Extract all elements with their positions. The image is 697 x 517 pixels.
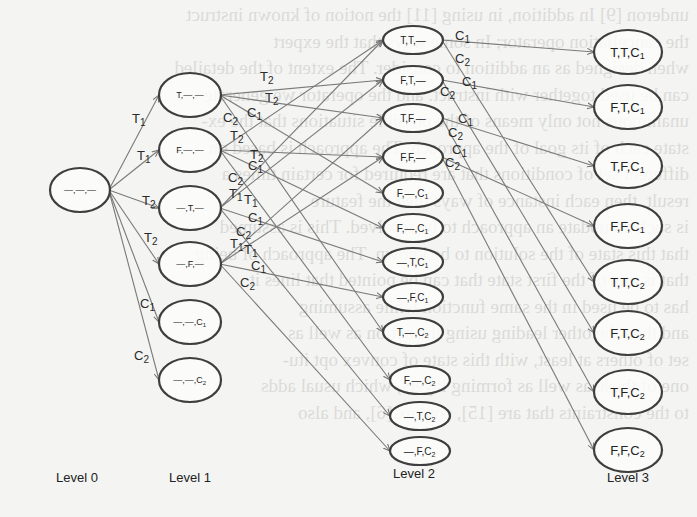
edge-l1_F-to-l2_FF: [220, 150, 383, 157]
state-node-l3_TFC2: T,F,C2: [594, 370, 662, 414]
edge-label: C2: [445, 155, 460, 172]
edge-label: T1: [244, 192, 258, 209]
edge-label: T2: [230, 128, 244, 145]
state-node-label: —,F,C1: [397, 292, 430, 304]
state-node-label: T,—,C2: [397, 327, 430, 339]
state-node-label: —,F,—: [176, 259, 204, 269]
state-node-label: T,—,—: [176, 90, 204, 100]
state-node-l3_TTC2: T,T,C2: [594, 260, 662, 304]
edge-label: T2: [142, 193, 156, 210]
edge-l2_FF-to-l3_FFC2: [442, 157, 594, 450]
edge-label: C1: [251, 258, 266, 275]
state-node-l2_TT: T,T,—: [383, 26, 443, 54]
state-node-l2_F_C1b: F,—,C1: [383, 214, 443, 242]
edge-label: C1: [247, 105, 262, 122]
state-node-label: F,T,—: [400, 75, 426, 86]
state-node-label: T,T,—: [400, 35, 426, 46]
state-node-l3_FFC2: F,F,C2: [594, 428, 662, 472]
state-node-label: —,F,C2: [404, 446, 437, 458]
edge-label: C2: [455, 51, 470, 68]
edge-label: C2: [240, 275, 255, 292]
edge-label: T1: [229, 186, 243, 203]
state-node-l1_T: T,—,—: [159, 73, 221, 117]
state-node-label: F,F,—: [400, 152, 426, 163]
edge-l2_FF-to-l3_FFC1: [442, 157, 594, 226]
level-label-1: Level 1: [169, 470, 211, 485]
edge-label: C2: [223, 110, 238, 127]
level-labels-layer: Level 0Level 1Level 2Level 3: [56, 466, 649, 485]
state-node-l2__FC1: —,F,C1: [383, 283, 443, 311]
state-node-label: —,T,C1: [397, 257, 430, 269]
state-node-l2_T_C2: T,—,C2: [383, 318, 443, 346]
edge-l1_T-to-l2_T_C2: [220, 95, 383, 332]
state-node-label: F,—,C2: [404, 375, 437, 387]
state-node-l3_FTC2: F,T,C2: [594, 311, 662, 355]
state-node-l2_FF: F,F,—: [383, 143, 443, 171]
state-node-l1__T: —,T,—: [159, 186, 221, 230]
state-node-l1__C1: —,—,C1: [159, 300, 221, 344]
edge-label: C2: [228, 170, 243, 187]
state-node-l1__F: —,F,—: [159, 242, 221, 286]
edge-l1_T-to-l2_FT: [220, 80, 383, 95]
edge-l1_T-to-l2_TF: [220, 95, 383, 118]
state-node-label: —,T,C2: [404, 411, 437, 423]
state-node-l1__C2: —,—,C2: [159, 358, 221, 402]
edge-l1_F-to-l2_F_C2: [220, 150, 390, 380]
level-label-0: Level 0: [56, 470, 98, 485]
state-node-label: —,—,C1: [173, 317, 207, 328]
edge-root-to-l1_F: [109, 150, 159, 190]
state-node-l2_F_C2: F,—,C2: [390, 366, 450, 394]
state-node-label: T,F,—: [400, 113, 426, 124]
edge-label: T2: [144, 230, 158, 247]
state-node-root: —,—,—: [50, 168, 110, 212]
state-node-label: F,—,C1: [397, 223, 430, 235]
edge-label: C2: [440, 84, 455, 101]
state-node-l2__TC1: —,T,C1: [383, 248, 443, 276]
state-node-l3_TTC1: T,T,C1: [594, 30, 662, 74]
edge-label: T1: [137, 148, 151, 165]
state-node-label: F,—,—: [176, 145, 204, 155]
state-node-l2__FC2: —,F,C2: [390, 437, 450, 465]
level-label-3: Level 3: [607, 470, 649, 485]
edge-label: C1: [458, 111, 473, 128]
state-node-l2_FT: F,T,—: [383, 66, 443, 94]
edge-label: C2: [448, 125, 463, 142]
state-node-l2_F_C1a: F,—,C1: [383, 179, 443, 207]
state-node-l2_TF: T,F,—: [383, 104, 443, 132]
state-node-label: —,T,—: [176, 203, 204, 213]
state-node-label: —,—,C2: [173, 375, 207, 386]
edge-label: T2: [260, 69, 274, 86]
edge-label: C1: [455, 28, 470, 45]
edge-label: T2: [265, 90, 279, 107]
state-node-l1_F: F,—,—: [159, 128, 221, 172]
edge-root-to-l1_T: [109, 95, 159, 190]
edge-label: C2: [134, 348, 149, 365]
edge-label: C1: [248, 210, 263, 227]
state-node-label: F,—,C1: [397, 188, 430, 200]
edge-label: T1: [244, 242, 258, 259]
state-node-l3_FTC1: F,T,C1: [594, 85, 662, 129]
edge-l1__T-to-l2_TT: [220, 40, 383, 208]
edge-label: C1: [140, 296, 155, 313]
edge-l1_F-to-l2_TT: [220, 40, 383, 150]
state-node-l2__TC2: —,T,C2: [390, 402, 450, 430]
edge-label: C1: [462, 74, 477, 91]
state-node-label: —,—,—: [64, 185, 96, 195]
state-node-l3_TFC1: T,F,C1: [594, 144, 662, 188]
state-space-tree-diagram: T1T1T2T2C1C2T2T2C1C2T2T2C1C2T1T1C1C2T1T1…: [0, 0, 697, 517]
edge-l1__F-to-l2__FC2: [220, 264, 390, 451]
state-node-l3_FFC1: F,F,C1: [594, 204, 662, 248]
edge-label: C2: [236, 224, 251, 241]
level-label-2: Level 2: [393, 466, 435, 481]
edge-label: T1: [132, 111, 146, 128]
